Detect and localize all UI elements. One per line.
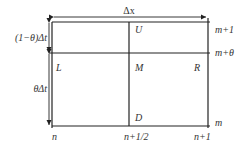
row-label-m-plus-theta: m+θ: [215, 47, 234, 58]
node-label-r: R: [193, 62, 200, 73]
column-labels: n n+1/2 n+1: [52, 131, 211, 142]
finite-difference-grid-diagram: Δx (1−θ)Δt θΔt m+1 m+θ m n n+1/2 n+1 U L…: [0, 0, 245, 150]
time-dimensions: (1−θ)Δt θΔt: [15, 23, 49, 125]
delta-x-dimension: Δx: [54, 5, 206, 17]
column-label-n: n: [52, 131, 57, 142]
column-label-n-plus-1: n+1: [194, 131, 211, 142]
grid: [49, 18, 210, 128]
node-labels: U L M R D: [55, 24, 200, 123]
column-label-n-half: n+1/2: [124, 131, 149, 142]
row-labels: m+1 m+θ m: [215, 24, 234, 128]
one-minus-theta-dt-label: (1−θ)Δt: [15, 32, 47, 44]
node-label-u: U: [135, 24, 143, 35]
row-label-m: m: [215, 117, 222, 128]
row-label-m-plus-1: m+1: [215, 24, 234, 35]
node-label-d: D: [134, 112, 143, 123]
node-label-l: L: [55, 62, 62, 73]
delta-x-label: Δx: [123, 5, 134, 16]
theta-dt-label: θΔt: [33, 83, 47, 94]
node-label-m: M: [134, 62, 144, 73]
